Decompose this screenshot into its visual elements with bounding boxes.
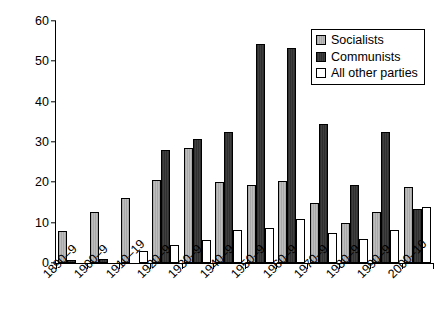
y-axis-tick-label: 30	[35, 136, 49, 149]
bar-group	[56, 21, 87, 263]
bar	[256, 44, 265, 263]
y-axis-tick-label: 10	[35, 216, 49, 229]
bar-group	[245, 21, 276, 263]
x-axis-labels: 1890–91900–91910–191920–91930–91940–9195…	[55, 268, 432, 332]
y-axis-tick-label: 60	[35, 15, 49, 28]
legend-item-communists: Communists	[316, 51, 418, 64]
y-axis-tick-label: 50	[35, 55, 49, 68]
legend-swatch-socialists	[316, 35, 326, 45]
legend-label-communists: Communists	[331, 51, 400, 64]
legend-swatch-all-other-parties	[316, 68, 326, 78]
y-axis-tick-label: 20	[35, 176, 49, 189]
bar-chart: 0102030405060 1890–91900–91910–191920–91…	[0, 0, 444, 332]
bar-group	[213, 21, 244, 263]
bar-group	[87, 21, 118, 263]
legend-swatch-communists	[316, 52, 326, 62]
y-axis-tick-label: 40	[35, 95, 49, 108]
bar-group	[276, 21, 307, 263]
bar-group	[119, 21, 150, 263]
x-axis-label-cell: 2000–10	[401, 268, 432, 332]
bar	[422, 207, 431, 263]
legend-item-all-other-parties: All other parties	[316, 67, 418, 80]
legend-label-socialists: Socialists	[331, 34, 384, 47]
bar-group	[182, 21, 213, 263]
legend-label-all-other-parties: All other parties	[331, 67, 418, 80]
chart-legend: Socialists Communists All other parties	[311, 29, 425, 85]
bar	[296, 219, 305, 263]
bar-group	[150, 21, 181, 263]
legend-item-socialists: Socialists	[316, 34, 418, 47]
x-axis-tick-mark	[433, 263, 434, 269]
bar	[287, 48, 296, 263]
